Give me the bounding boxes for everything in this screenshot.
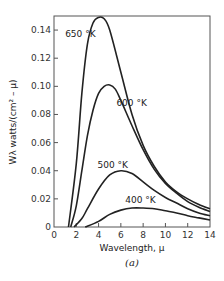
y-tick-label: 0.12 xyxy=(31,53,51,63)
x-tick-label: 0 xyxy=(51,230,57,240)
y-tick-label: 0.04 xyxy=(31,166,51,176)
x-tick-label: 14 xyxy=(204,230,216,240)
y-tick-label: 0.06 xyxy=(31,138,51,148)
curve-labels: 650 °K600 °K500 °K400 °K xyxy=(65,29,157,205)
blackbody-radiation-chart: 00.020.040.060.080.100.120.14 0246810121… xyxy=(0,0,224,281)
y-tick-label: 0.08 xyxy=(31,109,51,119)
curve-label: 600 °K xyxy=(116,98,148,108)
curve-label: 650 °K xyxy=(65,29,97,39)
y-axis-title: Wλ watts/(cm² – μ) xyxy=(8,79,18,164)
x-tick-label: 8 xyxy=(140,230,146,240)
y-tick-label: 0.02 xyxy=(31,194,51,204)
x-axis-title: Wavelength, μ xyxy=(100,243,165,253)
x-tick-label: 6 xyxy=(118,230,124,240)
x-tick-label: 4 xyxy=(96,230,102,240)
x-tick-label: 2 xyxy=(73,230,79,240)
x-tick-label: 12 xyxy=(182,230,193,240)
y-tick-label: 0.10 xyxy=(31,81,51,91)
curve-label: 500 °K xyxy=(97,160,129,170)
x-tick-label: 10 xyxy=(160,230,172,240)
curve-label: 400 °K xyxy=(125,195,157,205)
figure-caption: (a) xyxy=(125,257,139,268)
y-tick-label: 0.14 xyxy=(31,25,51,35)
